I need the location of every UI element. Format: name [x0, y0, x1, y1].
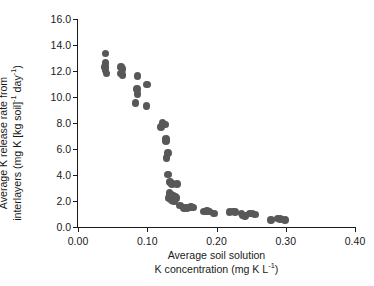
y-axis-tick-label: 10.0: [51, 91, 71, 103]
y-axis-tick-label: 12.0: [51, 65, 71, 77]
scatter-point: [162, 137, 170, 145]
x-axis-tick: [286, 227, 287, 232]
x-axis-title-line2-post: ): [275, 263, 279, 275]
scatter-point: [281, 216, 289, 224]
y-axis-title-sup2: -1: [9, 69, 18, 76]
x-axis-tick-label: 0.10: [137, 235, 157, 247]
x-axis-tick: [147, 227, 148, 232]
y-axis-tick-label: 0.0: [56, 221, 71, 233]
y-axis-tick: [73, 45, 78, 46]
plot-area: 0.02.04.06.08.010.012.014.016.00.000.100…: [78, 19, 355, 227]
y-axis-title-line1: Average K release rate from: [0, 77, 9, 209]
y-axis-tick: [73, 201, 78, 202]
x-axis-tick-label: 0.30: [276, 235, 296, 247]
x-axis-tick-label: 0.00: [68, 235, 88, 247]
y-axis-tick-label: 2.0: [56, 195, 71, 207]
x-axis-title-line1: Average soil solution: [168, 249, 266, 261]
scatter-point: [164, 171, 172, 179]
y-axis-tick: [73, 175, 78, 176]
scatter-point: [189, 204, 197, 212]
scatter-point: [132, 99, 140, 107]
y-axis-tick-label: 4.0: [56, 169, 71, 181]
scatter-point: [119, 71, 127, 79]
scatter-point: [163, 154, 171, 162]
y-axis-tick-label: 14.0: [51, 39, 71, 51]
scatter-point: [134, 72, 142, 80]
x-axis-tick: [217, 227, 218, 232]
scatter-point: [210, 210, 218, 218]
scatter-point: [102, 50, 110, 58]
y-axis-tick: [73, 71, 78, 72]
x-axis-tick-label: 0.20: [206, 235, 226, 247]
y-axis-title-line2-mid: day: [11, 75, 23, 95]
y-axis-title-sup1: -1: [9, 95, 18, 102]
scatter-point: [134, 90, 142, 98]
scatter-point: [251, 211, 259, 219]
x-axis-tick-label: 0.40: [345, 235, 365, 247]
y-axis-title: Average K release rate from interlayers …: [0, 0, 40, 286]
x-axis-title-line2-pre: K concentration (mg K L: [155, 263, 269, 275]
y-axis-tick: [73, 149, 78, 150]
x-axis-title: Average soil solution K concentration (m…: [78, 248, 355, 276]
y-axis-tick-label: 16.0: [51, 13, 71, 25]
y-axis-title-line2-post: ): [11, 65, 23, 69]
x-axis-title-sup: -1: [268, 261, 275, 270]
y-axis-tick-label: 8.0: [56, 117, 71, 129]
scatter-point: [143, 102, 151, 110]
scatter-point: [173, 180, 181, 188]
y-axis-tick-label: 6.0: [56, 143, 71, 155]
scatter-point: [157, 123, 165, 131]
x-axis-tick: [355, 227, 356, 232]
scatter-point: [103, 70, 111, 78]
scatter-point: [143, 81, 151, 89]
y-axis-title-line2-pre: interlayers (mg K [kg soil]: [11, 102, 23, 221]
y-axis-tick: [73, 19, 78, 20]
chart-figure: Average K release rate from interlayers …: [0, 0, 374, 286]
x-axis-tick: [78, 227, 79, 232]
y-axis-tick: [73, 123, 78, 124]
y-axis-tick: [73, 97, 78, 98]
